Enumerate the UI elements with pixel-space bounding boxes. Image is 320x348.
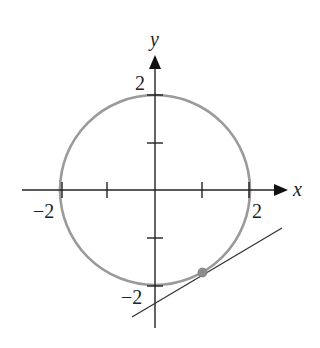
y-tick-label-neg2: −2 [121, 286, 142, 308]
y-tick-label-2: 2 [135, 72, 145, 94]
x-tick-label-neg2: −2 [33, 200, 54, 222]
y-axis-arrow-icon [149, 55, 161, 69]
circle-tangent-diagram: y x −2 2 2 −2 [0, 0, 320, 348]
x-axis-label: x [292, 178, 302, 200]
tangent-point [198, 268, 207, 277]
x-axis-arrow-icon [274, 184, 288, 196]
x-tick-label-2: 2 [252, 200, 262, 222]
y-axis-label: y [148, 28, 159, 51]
